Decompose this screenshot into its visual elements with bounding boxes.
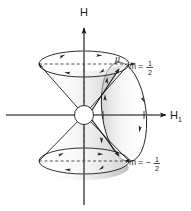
origin-sphere [75,106,94,125]
figure-canvas: H H 1 μ m = 1 2 m = − 1 2 [0,0,191,211]
state-label-lower-group: m = − 1 2 [129,156,160,172]
state-upper-numerator: 1 [148,60,152,67]
state-upper-equals: = [138,61,143,71]
state-lower-sign: − [146,157,151,167]
horizontal-axis-subscript: 1 [178,116,182,123]
vertical-axis-label: H [80,6,88,18]
state-lower-equals: = [138,157,143,167]
spin-precession-figure: H H 1 μ m = 1 2 m = − 1 2 [0,0,191,211]
state-upper-m: m [129,61,136,71]
state-lower-m: m [129,157,136,167]
origin-sphere-group [75,106,94,125]
horizontal-axis-label: H [170,109,178,121]
magnetic-moment-label: μ [114,53,120,64]
state-lower-numerator: 1 [155,156,159,163]
state-lower-denominator: 2 [155,165,159,172]
state-upper-denominator: 2 [148,69,152,76]
